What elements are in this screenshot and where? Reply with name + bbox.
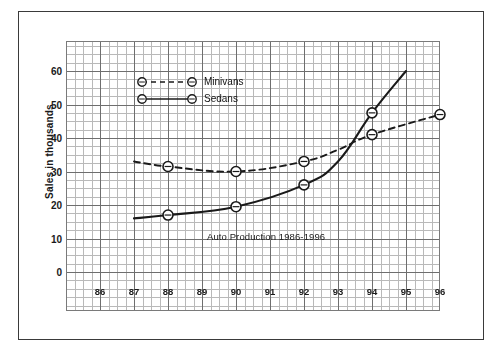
legend-label-sedans: Sedans — [204, 93, 238, 104]
y-tick-30: 30 — [51, 166, 62, 177]
chart-figure: Sales in thousands 0102030405060 8687888… — [0, 0, 504, 353]
y-tick-0: 0 — [56, 267, 62, 278]
chart-legend: Minivans Sedans — [136, 73, 243, 107]
series-line-minivans — [134, 115, 440, 172]
legend-label-minivans: Minivans — [204, 76, 243, 87]
series-layer — [66, 41, 440, 311]
legend-item-minivans: Minivans — [136, 73, 243, 90]
y-tick-20: 20 — [51, 200, 62, 211]
chart-title: Auto Production 1986-1996 — [207, 231, 325, 242]
series-minivans — [134, 110, 445, 177]
y-tick-40: 40 — [51, 133, 62, 144]
y-tick-60: 60 — [51, 66, 62, 77]
legend-swatch-solid — [136, 92, 198, 106]
legend-swatch-dashed — [136, 75, 198, 89]
plot-area: 0102030405060 8687888990919293949596 Min… — [66, 41, 440, 311]
legend-item-sedans: Sedans — [136, 90, 243, 107]
y-tick-10: 10 — [51, 233, 62, 244]
y-tick-50: 50 — [51, 99, 62, 110]
